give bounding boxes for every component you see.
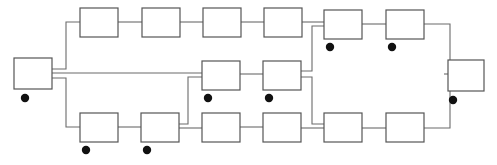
- node-box[interactable]: [80, 113, 118, 142]
- marker-dot-t6: [388, 43, 396, 51]
- node-b2[interactable]: [141, 113, 179, 142]
- node-box[interactable]: [203, 8, 241, 37]
- node-box[interactable]: [324, 10, 362, 39]
- node-box[interactable]: [263, 61, 301, 90]
- marker-dot-n-output: [449, 96, 457, 104]
- node-box[interactable]: [80, 8, 118, 37]
- connector-l-m2-b5: [301, 77, 324, 124]
- node-box[interactable]: [448, 60, 484, 91]
- node-b4[interactable]: [263, 113, 301, 142]
- node-n-input[interactable]: [14, 58, 52, 89]
- node-box[interactable]: [202, 113, 240, 142]
- node-box[interactable]: [263, 113, 301, 142]
- connector-l-m2-t5: [301, 26, 324, 71]
- connector-l-t6-out: [424, 24, 450, 68]
- marker-dot-m2: [265, 94, 273, 102]
- node-box[interactable]: [324, 113, 362, 142]
- node-box[interactable]: [142, 8, 180, 37]
- marker-dot-n-input: [21, 94, 29, 102]
- node-b5[interactable]: [324, 113, 362, 142]
- connector-l-in-up: [52, 22, 80, 69]
- marker-dot-t5: [326, 43, 334, 51]
- node-box[interactable]: [202, 61, 240, 90]
- node-box[interactable]: [386, 10, 424, 39]
- node-n-output[interactable]: [448, 60, 484, 91]
- node-box[interactable]: [141, 113, 179, 142]
- marker-dot-m1: [204, 94, 212, 102]
- marker-dot-b2: [143, 146, 151, 154]
- node-layer: [14, 8, 484, 142]
- node-t5[interactable]: [324, 10, 362, 39]
- node-m2[interactable]: [263, 61, 301, 90]
- node-m1[interactable]: [202, 61, 240, 90]
- diagram-canvas: [0, 0, 497, 165]
- node-b1[interactable]: [80, 113, 118, 142]
- node-box[interactable]: [386, 113, 424, 142]
- node-b3[interactable]: [202, 113, 240, 142]
- block-flow-diagram: [0, 0, 497, 165]
- marker-dot-b1: [82, 146, 90, 154]
- node-t4[interactable]: [264, 8, 302, 37]
- node-t1[interactable]: [80, 8, 118, 37]
- connector-l-in-down: [52, 78, 80, 127]
- node-t6[interactable]: [386, 10, 424, 39]
- connector-l-b2-m1: [179, 77, 202, 124]
- node-b6[interactable]: [386, 113, 424, 142]
- node-t2[interactable]: [142, 8, 180, 37]
- node-t3[interactable]: [203, 8, 241, 37]
- node-box[interactable]: [264, 8, 302, 37]
- connector-l-b6-out: [424, 80, 450, 128]
- node-box[interactable]: [14, 58, 52, 89]
